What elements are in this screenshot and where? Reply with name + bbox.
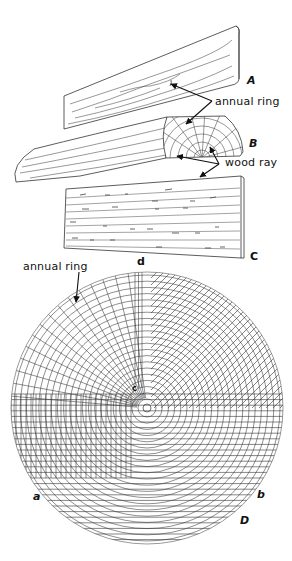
label-a-left: a [33,490,40,503]
label-d-top: d [137,255,145,268]
label-c-board: C [250,250,258,263]
label-c-center: c [132,384,137,393]
annual-ring-label-bottom: annual ring [23,260,88,273]
board-c [64,176,244,258]
label-b-log: B [249,137,257,150]
annual-ring-label-top: annual ring [215,95,280,108]
wood-ray-label: wood ray [225,156,277,169]
label-d-section: D [240,514,249,527]
cross-section-d [7,272,292,541]
label-a-board: A [247,74,256,87]
board-a [64,26,239,129]
label-b-right: b [257,488,265,501]
